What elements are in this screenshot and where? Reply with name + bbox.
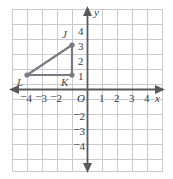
y-tick-label--4: –4	[74, 141, 85, 152]
minus-sign: –	[74, 123, 80, 134]
y-tick-label--2: –2	[74, 111, 85, 122]
y-axis-arrow-up	[83, 6, 92, 16]
triangle-jkl-outline	[27, 45, 72, 75]
x-tick-label-2: 2	[114, 93, 120, 104]
y-tick-label-2: 2	[78, 56, 84, 67]
axis-lines	[9, 6, 165, 173]
minus-sign: –	[36, 90, 42, 101]
minus-sign: –	[74, 108, 80, 119]
origin-label: O	[77, 93, 85, 104]
y-tick-label-1: 1	[78, 71, 84, 82]
minus-sign: –	[74, 138, 80, 149]
vertex-label-k: K	[61, 77, 68, 88]
x-tick-label--3: –3	[36, 93, 47, 104]
triangle-jkl	[27, 45, 72, 75]
y-tick-label-3: 3	[78, 41, 84, 52]
x-tick-label-1: 1	[99, 93, 105, 104]
y-tick-digits: 3	[80, 125, 86, 137]
y-axis-label: y	[94, 7, 99, 18]
x-tick-label-3: 3	[129, 93, 135, 104]
vertex-label-j: J	[62, 29, 67, 40]
vertex-dot-k	[69, 72, 74, 77]
minus-sign: –	[51, 90, 57, 101]
x-tick-label--2: –2	[51, 93, 62, 104]
x-tick-digits: 4	[27, 92, 33, 104]
y-tick-label-4: 4	[78, 26, 84, 37]
x-tick-label--4: –4	[21, 93, 32, 104]
y-tick-digits: 4	[80, 140, 86, 152]
x-axis-label: x	[155, 93, 160, 104]
x-tick-label-4: 4	[144, 93, 150, 104]
y-tick-label--3: –3	[74, 126, 85, 137]
minus-sign: –	[21, 90, 27, 101]
x-tick-digits: 3	[42, 92, 48, 104]
vertex-label-l: L	[17, 77, 23, 88]
graph-screenshot: J K L O –4 –3 –2 1 2 3 4 4 3 2 1 –2 –3 –…	[0, 0, 173, 179]
vertex-dot-j	[69, 42, 74, 47]
vertex-dot-l	[24, 72, 29, 77]
x-tick-digits: 2	[57, 92, 63, 104]
y-tick-digits: 2	[80, 110, 86, 122]
